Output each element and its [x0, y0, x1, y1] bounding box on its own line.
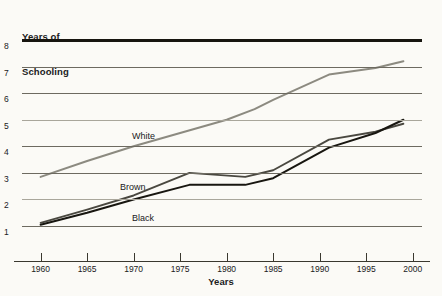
y-tick-label-8: 8 — [4, 41, 20, 51]
x-tick-mark-1970 — [134, 253, 135, 261]
gridline-y-4 — [22, 146, 422, 147]
x-tick-mark-2000 — [413, 253, 414, 261]
chart-figure: Years of Schooling 12345678 196019651970… — [0, 0, 442, 296]
gridline-y-1 — [22, 226, 422, 227]
x-tick-label-2000: 2000 — [393, 264, 433, 274]
x-tick-mark-1980 — [227, 253, 228, 261]
y-tick-label-4: 4 — [4, 147, 20, 157]
plot-area — [22, 40, 422, 238]
x-tick-label-1960: 1960 — [21, 264, 61, 274]
x-tick-label-1975: 1975 — [160, 264, 200, 274]
y-tick-label-1: 1 — [4, 227, 20, 237]
x-tick-label-1970: 1970 — [114, 264, 154, 274]
gridline-y-3 — [22, 173, 422, 174]
y-tick-label-5: 5 — [4, 121, 20, 131]
gridline-y-8 — [22, 39, 422, 42]
y-tick-label-7: 7 — [4, 68, 20, 78]
y-tick-label-2: 2 — [4, 200, 20, 210]
x-tick-mark-1990 — [320, 253, 321, 261]
gridline-y-5 — [22, 120, 422, 121]
series-annotation-black: Black — [132, 213, 154, 223]
y-tick-label-3: 3 — [4, 174, 20, 184]
x-tick-mark-1985 — [273, 253, 274, 261]
gridline-y-7 — [22, 67, 422, 68]
x-axis-caption: Years — [0, 276, 442, 287]
y-tick-label-6: 6 — [4, 94, 20, 104]
series-lines — [22, 40, 422, 238]
series-annotation-brown: Brown — [120, 182, 146, 192]
x-tick-mark-1995 — [366, 253, 367, 261]
x-tick-label-1985: 1985 — [253, 264, 293, 274]
x-tick-mark-1960 — [41, 253, 42, 261]
gridline-y-2 — [22, 199, 422, 200]
series-annotation-white: White — [132, 131, 155, 141]
x-axis-line — [14, 261, 430, 262]
x-tick-mark-1965 — [87, 253, 88, 261]
x-tick-label-1965: 1965 — [67, 264, 107, 274]
x-tick-label-1990: 1990 — [300, 264, 340, 274]
gridline-y-6 — [22, 93, 422, 94]
x-tick-label-1995: 1995 — [346, 264, 386, 274]
x-tick-mark-1975 — [180, 253, 181, 261]
x-tick-label-1980: 1980 — [207, 264, 247, 274]
